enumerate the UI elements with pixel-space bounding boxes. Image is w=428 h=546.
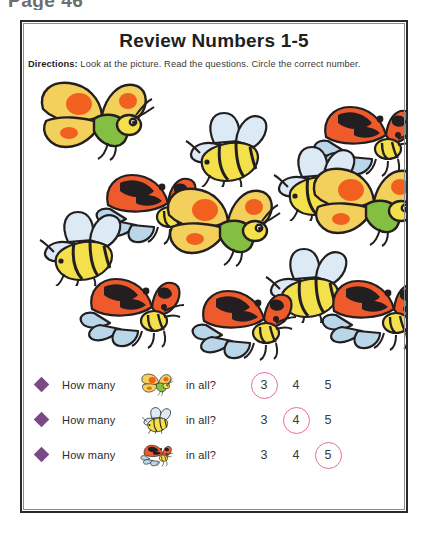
answer-choice[interactable]: 3 [248, 441, 280, 469]
butterfly-illustration [308, 165, 408, 247]
butterfly-icon [134, 373, 180, 396]
diamond-bullet-icon [34, 377, 50, 393]
question-row: How manyin all?345 [22, 367, 406, 402]
answer-choices: 345 [248, 371, 344, 399]
answer-choice[interactable]: 4 [280, 371, 312, 399]
diamond-bullet-icon [34, 412, 50, 428]
answer-choice[interactable]: 5 [312, 371, 344, 399]
answer-choice-selected[interactable]: 5 [312, 441, 344, 469]
questions-list: How manyin all?345How manyin all?345How … [22, 367, 406, 472]
directions-label: Directions: [28, 59, 78, 69]
ladybug-illustration [78, 269, 188, 349]
butterfly-illustration [36, 79, 156, 161]
question-row: How manyin all?345 [22, 437, 406, 472]
answer-choice-selected[interactable]: 3 [248, 371, 280, 399]
question-suffix: in all? [186, 449, 238, 461]
picture-area [22, 73, 406, 358]
ladybug-illustration [320, 271, 408, 351]
question-suffix: in all? [186, 414, 238, 426]
answer-choice-selected[interactable]: 4 [280, 406, 312, 434]
directions-text: Look at the picture. Read the questions.… [80, 59, 360, 69]
answer-choices: 345 [248, 441, 344, 469]
answer-choice[interactable]: 4 [280, 441, 312, 469]
ladybug-icon [134, 442, 180, 467]
question-text: How many [62, 414, 134, 426]
answer-choice[interactable]: 5 [312, 406, 344, 434]
directions-line: Directions: Look at the picture. Read th… [28, 59, 406, 69]
question-text: How many [62, 449, 134, 461]
worksheet-frame: Review Numbers 1-5 Directions: Look at t… [20, 20, 408, 513]
page-number-header: Page 46 [8, 0, 83, 10]
answer-choice[interactable]: 3 [248, 406, 280, 434]
diamond-bullet-icon [34, 447, 50, 463]
answer-choices: 345 [248, 406, 344, 434]
question-row: How manyin all?345 [22, 402, 406, 437]
question-text: How many [62, 379, 134, 391]
question-suffix: in all? [186, 379, 238, 391]
ladybug-illustration [190, 281, 300, 361]
bee-icon [134, 406, 180, 434]
page-title: Review Numbers 1-5 [22, 30, 406, 52]
